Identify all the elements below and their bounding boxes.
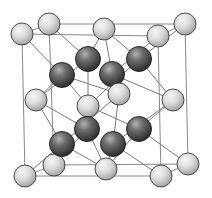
cell-edge xyxy=(185,24,188,164)
atom-left-face-center xyxy=(25,89,47,111)
atom-right-face-center xyxy=(162,89,184,111)
atom-tetra-2 xyxy=(127,47,152,72)
atom-front-top-left xyxy=(11,23,33,45)
cell-edge xyxy=(22,34,158,36)
atom-front-bottom-left xyxy=(14,165,36,187)
atom-top-face-center xyxy=(93,18,115,40)
atom-back-top-left xyxy=(38,13,60,35)
atom-tetra-3 xyxy=(75,117,100,142)
atom-bottom-face-center xyxy=(95,158,117,180)
atom-tetra-7 xyxy=(50,132,75,157)
atom-back-bottom-left xyxy=(43,154,65,176)
unit-cell-canvas xyxy=(0,0,212,198)
atom-back-bottom-right xyxy=(177,153,199,175)
atom-tetra-4 xyxy=(127,117,152,142)
atom-back-top-right xyxy=(174,13,196,35)
crystal-structure-diagram xyxy=(0,0,212,198)
cell-edge xyxy=(54,164,188,165)
atom-front-face-center xyxy=(108,83,130,105)
atom-tetra-1 xyxy=(76,47,101,72)
cell-edge xyxy=(22,34,25,176)
cell-edge xyxy=(158,36,161,176)
atom-front-bottom-right xyxy=(150,165,172,187)
atom-tetra-8 xyxy=(101,132,126,157)
atom-tetra-5 xyxy=(50,63,75,88)
atom-back-face-center xyxy=(77,95,99,117)
dark-atoms xyxy=(50,47,152,157)
atom-front-top-right xyxy=(147,25,169,47)
